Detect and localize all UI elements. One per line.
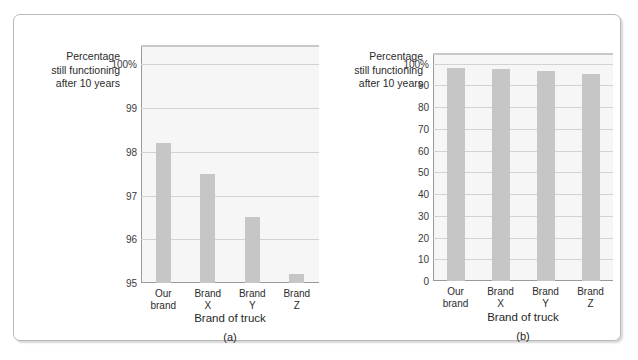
x-tick-label: BrandZ bbox=[577, 286, 604, 310]
x-tick-label-line: Y bbox=[239, 300, 266, 312]
y-caption-line: after 10 years bbox=[20, 77, 120, 91]
gridline bbox=[433, 64, 613, 65]
plot-area-b: 0102030405060708090100%OurbrandBrandXBra… bbox=[433, 53, 613, 281]
bar bbox=[492, 69, 510, 281]
panel-caption-b: (b) bbox=[433, 330, 613, 342]
x-tick-label: BrandY bbox=[532, 286, 559, 310]
y-tick-label: 99 bbox=[126, 103, 137, 114]
gridline bbox=[141, 108, 319, 109]
bar bbox=[447, 68, 465, 281]
y-tick-label: 95 bbox=[126, 278, 137, 289]
x-tick-label-line: Our bbox=[150, 288, 176, 300]
x-tick-label-line: Z bbox=[577, 298, 604, 310]
gridline bbox=[141, 64, 319, 65]
x-tick-label-line: Brand bbox=[194, 288, 221, 300]
y-axis-caption-a: Percentage still functioning after 10 ye… bbox=[20, 50, 120, 91]
chart-panel-a: Percentage still functioning after 10 ye… bbox=[14, 15, 324, 342]
y-tick-label: 40 bbox=[418, 189, 429, 200]
x-tick-label-line: brand bbox=[443, 298, 469, 310]
plot-area-a: 9596979899100%OurbrandBrandXBrandYBrandZ bbox=[141, 45, 319, 283]
bar bbox=[200, 174, 215, 283]
x-tick-label-line: Our bbox=[443, 286, 469, 298]
x-tick-label-line: Brand bbox=[577, 286, 604, 298]
panel-caption-a: (a) bbox=[141, 331, 319, 343]
x-axis-title-a: Brand of truck bbox=[141, 312, 319, 324]
y-tick-label: 30 bbox=[418, 210, 429, 221]
y-tick-label: 50 bbox=[418, 167, 429, 178]
x-tick-label: BrandX bbox=[194, 288, 221, 312]
y-caption-line: still functioning bbox=[20, 64, 120, 78]
bar bbox=[156, 143, 171, 283]
y-caption-line: Percentage bbox=[20, 50, 120, 64]
x-tick-label-line: Brand bbox=[283, 288, 310, 300]
x-tick-label-line: Brand bbox=[532, 286, 559, 298]
x-tick-label-line: Brand bbox=[239, 288, 266, 300]
y-tick-label: 96 bbox=[126, 234, 137, 245]
bar bbox=[289, 274, 304, 283]
bar bbox=[582, 74, 600, 281]
bar bbox=[245, 217, 260, 283]
y-tick-label: 97 bbox=[126, 190, 137, 201]
y-tick-label: 10 bbox=[418, 254, 429, 265]
y-tick-label: 0 bbox=[423, 276, 429, 287]
figure-root: Percentage still functioning after 10 ye… bbox=[0, 0, 638, 360]
x-tick-label-line: Brand bbox=[487, 286, 514, 298]
x-tick-label-line: X bbox=[194, 300, 221, 312]
x-tick-label-line: X bbox=[487, 298, 514, 310]
y-tick-label: 20 bbox=[418, 232, 429, 243]
x-axis-title-b: Brand of truck bbox=[433, 311, 613, 323]
x-tick-label: BrandY bbox=[239, 288, 266, 312]
x-tick-label: BrandZ bbox=[283, 288, 310, 312]
chart-panel-b: Percentage still functioning after 10 ye… bbox=[321, 15, 621, 342]
y-tick-label: 70 bbox=[418, 123, 429, 134]
x-tick-label: BrandX bbox=[487, 286, 514, 310]
y-caption-line: after 10 years bbox=[323, 77, 423, 91]
x-tick-label: Ourbrand bbox=[150, 288, 176, 312]
x-tick-label-line: brand bbox=[150, 300, 176, 312]
y-tick-label: 98 bbox=[126, 146, 137, 157]
x-tick-label-line: Y bbox=[532, 298, 559, 310]
figure-card: Percentage still functioning after 10 ye… bbox=[13, 14, 621, 341]
y-tick-label: 90 bbox=[418, 80, 429, 91]
y-axis-caption-b: Percentage still functioning after 10 ye… bbox=[323, 50, 423, 91]
y-tick-label: 100% bbox=[111, 59, 137, 70]
y-tick-label: 100% bbox=[403, 58, 429, 69]
y-tick-label: 60 bbox=[418, 145, 429, 156]
y-axis-line-a bbox=[141, 47, 142, 283]
x-tick-label: Ourbrand bbox=[443, 286, 469, 310]
x-tick-label-line: Z bbox=[283, 300, 310, 312]
bar bbox=[537, 71, 555, 281]
y-axis-line-b bbox=[433, 55, 434, 281]
y-tick-label: 80 bbox=[418, 102, 429, 113]
